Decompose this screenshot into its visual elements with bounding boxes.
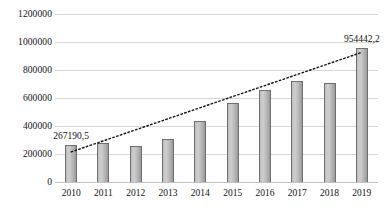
gridline [55,182,378,183]
bar [227,103,239,182]
bar [65,145,77,182]
y-axis-tick-label: 200000 [23,149,52,159]
x-axis-tick-label: 2013 [159,188,178,199]
data-value-label: 267190,5 [53,131,89,141]
bar [130,146,142,182]
bar [291,81,303,183]
x-axis-tick-label: 2010 [62,188,81,199]
plot-area [55,14,378,182]
gridline [55,42,378,43]
gridline [55,70,378,71]
y-axis-tick-label: 600000 [23,93,52,103]
y-axis-tick-label: 1200000 [18,9,52,19]
x-axis-tick-label: 2017 [288,188,307,199]
bar [194,121,206,182]
x-axis-tick-label: 2012 [126,188,145,199]
y-axis-tick-label: 400000 [23,121,52,131]
bar [259,90,271,182]
x-axis-tick-label: 2015 [223,188,242,199]
data-value-label: 954442,2 [344,34,380,44]
bar [162,139,174,182]
bar-chart: 020000040000060000080000010000001200000 … [0,0,385,206]
bar [356,48,368,182]
x-axis-tick-label: 2018 [320,188,339,199]
gridline [55,14,378,15]
x-axis-tick-label: 2014 [191,188,210,199]
bar [324,83,336,182]
bar [97,143,109,182]
x-axis-tick-label: 2019 [352,188,371,199]
y-axis-tick-label: 800000 [23,65,52,75]
y-axis-tick-label: 0 [47,177,52,187]
x-axis-tick-label: 2011 [94,188,113,199]
x-axis-tick-label: 2016 [255,188,274,199]
y-axis-tick-label: 1000000 [18,37,52,47]
